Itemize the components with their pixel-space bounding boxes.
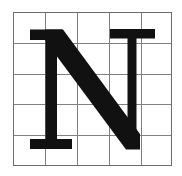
letterform-specimen: N — [0, 0, 182, 176]
specimen-canvas — [0, 0, 182, 176]
